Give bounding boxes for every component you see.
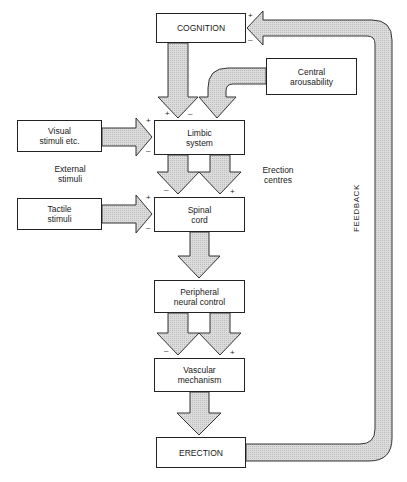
peripheral-neural-control-line2: neural control: [174, 297, 226, 307]
spinal-cord-line1: Spinal: [188, 205, 212, 215]
external-stimuli-line1: External: [40, 164, 100, 174]
vascular-to-erection-arrow: [177, 392, 221, 435]
central-arousability-line2: arousability: [290, 77, 333, 87]
feedback-label: FEEDBACK: [352, 184, 361, 232]
cognition-label: COGNITION: [177, 23, 225, 33]
limbic-system-line1: Limbic: [187, 128, 212, 138]
central-arousability-line1: Central: [298, 67, 325, 77]
erection-label: ERECTION: [179, 448, 223, 458]
visual-to-limbic-arrow: [102, 118, 152, 156]
vascular-peripheral-minus: –: [164, 347, 168, 355]
erection-centres-label: Erection centres: [248, 165, 308, 185]
spinal-tactile-plus: +: [146, 194, 151, 202]
spinal-limbic-minus: –: [164, 186, 168, 194]
vascular-peripheral-plus: +: [230, 349, 235, 357]
limbic-system-line2: system: [186, 138, 213, 148]
spinal-limbic-plus: +: [230, 188, 235, 196]
cognition-feedback-minus: –: [248, 36, 252, 44]
erection-centres-line1: Erection: [248, 165, 308, 175]
erection-box: ERECTION: [156, 437, 246, 468]
spinal-to-peripheral-arrow: [178, 232, 220, 278]
erection-centres-line2: centres: [248, 175, 308, 185]
visual-stimuli-box: Visual stimuli etc.: [17, 120, 102, 152]
peripheral-neural-control-box: Peripheral neural control: [154, 280, 245, 313]
cognition-to-limbic-arrow: [158, 43, 198, 118]
tactile-to-spinal-arrow: [102, 195, 152, 233]
vascular-mechanism-box: Vascular mechanism: [154, 358, 245, 392]
central-arousability-box: Central arousability: [266, 58, 357, 95]
vascular-mechanism-line1: Vascular: [183, 365, 215, 375]
spinal-cord-line2: cord: [191, 215, 208, 225]
erection-control-diagram: COGNITION Central arousability Visual st…: [0, 0, 407, 482]
external-stimuli-line2: stimuli: [40, 174, 100, 184]
tactile-stimuli-line2: stimuli: [47, 214, 71, 224]
limbic-visual-minus: –: [146, 147, 150, 155]
visual-stimuli-line2: stimuli etc.: [39, 136, 79, 146]
cognition-feedback-plus: +: [248, 12, 253, 20]
arousability-to-limbic-arrow: [199, 68, 266, 118]
visual-stimuli-line1: Visual: [48, 126, 71, 136]
spinal-cord-box: Spinal cord: [154, 197, 245, 232]
vascular-mechanism-line2: mechanism: [178, 375, 221, 385]
limbic-system-box: Limbic system: [154, 120, 245, 155]
limbic-cognition-plus: +: [165, 110, 170, 118]
limbic-cognition-minus: –: [188, 110, 192, 118]
tactile-stimuli-box: Tactile stimuli: [17, 198, 102, 230]
limbic-visual-plus: +: [146, 117, 151, 125]
external-stimuli-label: External stimuli: [40, 164, 100, 184]
peripheral-neural-control-line1: Peripheral: [180, 287, 219, 297]
cognition-box: COGNITION: [156, 13, 246, 43]
tactile-stimuli-line1: Tactile: [47, 204, 71, 214]
spinal-tactile-minus: –: [146, 224, 150, 232]
